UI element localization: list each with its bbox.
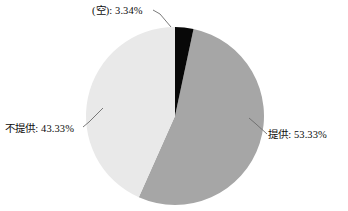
- pie-label-not-provided: 不提供: 43.33%: [5, 123, 74, 135]
- pie-slices: [86, 27, 264, 205]
- pie-label-provided: 提供: 53.33%: [268, 129, 327, 141]
- pie-label-blank: (空): 3.34%: [92, 5, 143, 17]
- leader-line-blank: [153, 10, 171, 27]
- pie-chart-canvas: [0, 0, 348, 211]
- pie-chart: (空): 3.34% 不提供: 43.33% 提供: 53.33%: [0, 0, 348, 211]
